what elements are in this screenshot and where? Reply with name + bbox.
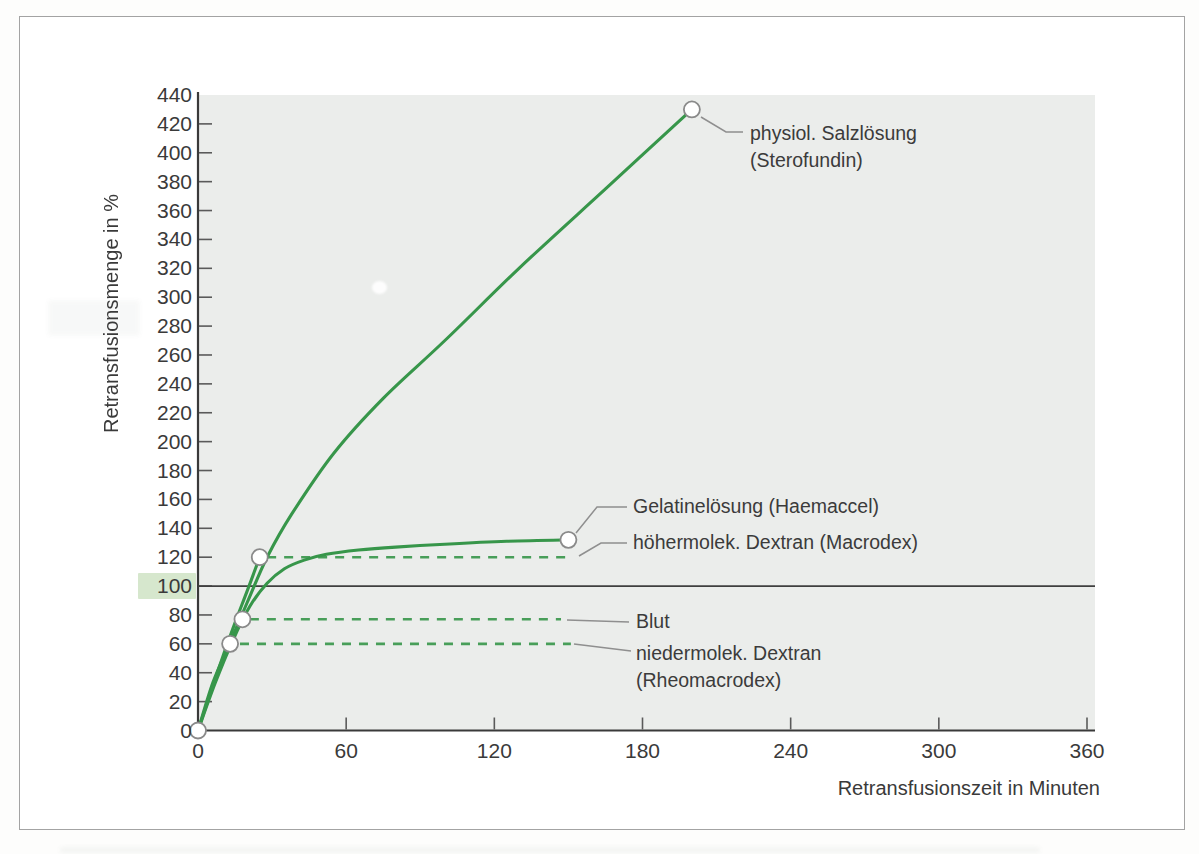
y-tick-label: 80 — [130, 602, 192, 626]
curve-label-line: Gelatinelösung (Haemaccel) — [633, 493, 879, 520]
origin-marker — [190, 723, 206, 739]
curve-label-line: höhermolek. Dextran (Macrodex) — [633, 529, 918, 556]
x-tick-label: 60 — [334, 739, 357, 763]
y-tick-label: 180 — [130, 458, 192, 482]
leader-line-rheomacrodex — [574, 644, 631, 651]
y-tick-label: 300 — [130, 285, 192, 309]
end-marker-4 — [234, 611, 250, 627]
x-tick-label: 120 — [477, 739, 512, 763]
curve-2 — [198, 540, 568, 731]
curve-label-line: (Sterofundin) — [750, 147, 917, 174]
end-marker-2 — [560, 532, 576, 548]
y-tick-label: 340 — [130, 227, 192, 251]
leader-line-macrodex — [579, 543, 627, 556]
leader-line-blut — [567, 620, 629, 622]
end-marker-1 — [684, 101, 700, 117]
y-tick-label: 200 — [130, 429, 192, 453]
y-tick-label: 380 — [130, 169, 192, 193]
y-tick-label: 420 — [130, 111, 192, 135]
curve-label-line: niedermolek. Dextran — [636, 640, 821, 667]
curve-label-line: (Rheomacrodex) — [636, 667, 821, 694]
y-tick-label: 400 — [130, 140, 192, 164]
y-tick-label: 320 — [130, 256, 192, 280]
curve-1 — [198, 109, 692, 730]
curve-label-sterofundin: physiol. Salzlösung(Sterofundin) — [750, 120, 917, 174]
x-tick-label: 360 — [1069, 739, 1104, 763]
curve-label-blut: Blut — [636, 608, 670, 635]
y-tick-label: 360 — [130, 198, 192, 222]
x-tick-label: 0 — [192, 739, 204, 763]
x-tick-label: 240 — [773, 739, 808, 763]
y-tick-label: 60 — [130, 631, 192, 655]
y-tick-label: 280 — [130, 314, 192, 338]
y-tick-label: 140 — [130, 516, 192, 540]
curve-label-rheomacrodex: niedermolek. Dextran(Rheomacrodex) — [636, 640, 821, 694]
y-tick-label: 220 — [130, 400, 192, 424]
y-tick-label: 100 — [130, 574, 192, 598]
x-tick-label: 300 — [921, 739, 956, 763]
curve-label-haemaccel: Gelatinelösung (Haemaccel) — [633, 493, 879, 520]
y-tick-label: 120 — [130, 545, 192, 569]
y-tick-label: 160 — [130, 487, 192, 511]
leader-line-sterofundin — [701, 117, 743, 132]
curve-label-line: Blut — [636, 608, 670, 635]
y-tick-label: 20 — [130, 689, 192, 713]
y-axis-title: Retransfusionsmenge in % — [96, 168, 126, 458]
end-marker-5 — [222, 636, 238, 652]
y-tick-label: 40 — [130, 660, 192, 684]
x-tick-label: 180 — [625, 739, 660, 763]
y-tick-label: 0 — [130, 718, 192, 742]
y-tick-label: 260 — [130, 342, 192, 366]
curve-label-line: physiol. Salzlösung — [750, 120, 917, 147]
leader-line-haemaccel — [576, 507, 627, 533]
curve-label-macrodex: höhermolek. Dextran (Macrodex) — [633, 529, 918, 556]
x-axis-title: Retransfusionszeit in Minuten — [700, 777, 1100, 800]
y-tick-label: 440 — [130, 83, 192, 107]
end-marker-3 — [252, 549, 268, 565]
y-tick-label: 240 — [130, 371, 192, 395]
